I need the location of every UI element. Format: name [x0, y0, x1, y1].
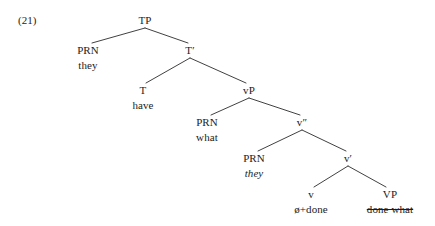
- node-vp-leaf-label: VP: [367, 188, 413, 201]
- node-v-double-bar: v″: [297, 116, 307, 129]
- tree-edge-vbb-to-vbar: [302, 130, 346, 151]
- tree-edge-tbar-to-vp: [190, 58, 246, 83]
- tree-edge-tbar-to-t_have: [146, 58, 190, 83]
- node-v-double-bar-label: v″: [297, 116, 307, 129]
- node-prn-they-copy: PRN they: [243, 152, 265, 179]
- node-prn-they-copy-label: PRN: [243, 152, 265, 165]
- tree-edge-vp-to-vbb: [249, 98, 300, 115]
- tree-edge-vbar-to-v_done: [314, 166, 348, 187]
- tree-edge-vp-to-prn_what: [211, 98, 249, 115]
- node-v-bar-label: v′: [344, 152, 352, 165]
- node-v-bar: v′: [344, 152, 352, 165]
- figure-canvas: (21) TP PRN they T′ T have vP PRN what v…: [0, 0, 435, 226]
- node-prn-what-word: what: [196, 131, 218, 144]
- node-prn-what-label: PRN: [196, 116, 218, 129]
- node-v-head-label: v: [294, 188, 328, 201]
- node-v-head-word: ø+done: [294, 203, 328, 216]
- tree-edge-vbar-to-vp_done: [348, 166, 386, 187]
- node-t-bar: T′: [185, 44, 194, 57]
- node-t-bar-label: T′: [185, 44, 194, 57]
- node-vp-label: vP: [243, 84, 255, 97]
- tree-edge-tp-to-prn_they: [92, 28, 145, 43]
- node-prn-what: PRN what: [196, 116, 218, 143]
- node-t-have-label: T: [132, 84, 153, 97]
- node-t-have: T have: [132, 84, 153, 111]
- node-prn-they-copy-word: they: [243, 167, 265, 180]
- tree-edge-tp-to-tbar: [145, 28, 188, 43]
- node-v-head: v ø+done: [294, 188, 328, 215]
- tree-edge-vbb-to-prn_they2: [258, 130, 302, 151]
- node-t-have-word: have: [132, 99, 153, 112]
- node-vp-leaf-deleted-words: done what: [367, 203, 413, 216]
- node-vp: vP: [243, 84, 255, 97]
- node-vp-leaf: VP done what: [367, 188, 413, 215]
- node-prn-they-subject-word: they: [77, 59, 99, 72]
- node-tp-label: TP: [138, 14, 151, 27]
- node-prn-they-subject: PRN they: [77, 44, 99, 71]
- node-tp: TP: [138, 14, 151, 27]
- node-prn-they-subject-label: PRN: [77, 44, 99, 57]
